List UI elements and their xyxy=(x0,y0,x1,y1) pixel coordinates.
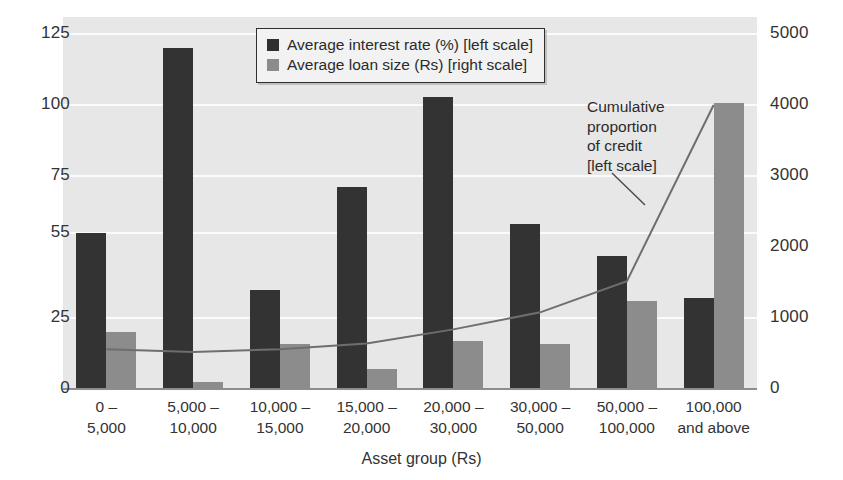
bar-loan-size xyxy=(106,332,136,389)
axis-baseline xyxy=(63,388,757,390)
right-axis-tick-label: 0 xyxy=(770,378,780,398)
right-axis-tick-label: 1000 xyxy=(770,307,809,327)
x-axis-category-label: 50,000 – 100,000 xyxy=(578,396,677,438)
x-axis-category-label: 15,000 – 20,000 xyxy=(317,396,416,438)
chart-legend: Average interest rate (%) [left scale]Av… xyxy=(256,28,545,83)
x-axis-category-label: 10,000 – 15,000 xyxy=(231,396,330,438)
bar-interest-rate xyxy=(423,97,453,389)
x-axis-category-label: 0 – 5,000 xyxy=(57,396,156,438)
bar-interest-rate xyxy=(250,290,280,389)
x-axis-category-label: 5,000 – 10,000 xyxy=(144,396,243,438)
bar-interest-rate xyxy=(597,256,627,389)
bar-interest-rate xyxy=(163,48,193,389)
bar-interest-rate xyxy=(510,224,540,389)
right-axis-tick-label: 3000 xyxy=(770,165,809,185)
legend-swatch-icon xyxy=(267,39,279,51)
legend-item-label: Average loan size (Rs) [right scale] xyxy=(287,55,527,75)
right-axis-tick-label: 4000 xyxy=(770,94,809,114)
chart-container: 0255575100125 010002000300040005000 0 – … xyxy=(0,0,843,480)
bar-loan-size xyxy=(453,341,483,389)
bar-loan-size xyxy=(540,344,570,389)
x-axis-category-label: 100,000 and above xyxy=(664,396,763,438)
legend-swatch-icon xyxy=(267,59,279,71)
legend-item: Average loan size (Rs) [right scale] xyxy=(267,55,533,75)
bar-interest-rate xyxy=(337,187,367,389)
legend-item-label: Average interest rate (%) [left scale] xyxy=(287,35,533,55)
x-axis-title: Asset group (Rs) xyxy=(0,450,843,468)
left-axis-tick-label: 100 xyxy=(41,94,70,114)
bar-loan-size xyxy=(627,301,657,389)
legend-item: Average interest rate (%) [left scale] xyxy=(267,35,533,55)
bar-loan-size xyxy=(714,103,744,389)
left-axis-tick-label: 125 xyxy=(41,23,70,43)
left-axis-tick-label: 25 xyxy=(51,307,70,327)
x-axis-category-labels: 0 – 5,0005,000 – 10,00010,000 – 15,00015… xyxy=(63,396,757,444)
right-axis-tick-label: 5000 xyxy=(770,23,809,43)
left-axis-tick-label: 0 xyxy=(60,378,70,398)
bar-loan-size xyxy=(280,344,310,389)
bar-loan-size xyxy=(367,369,397,389)
bar-interest-rate xyxy=(684,298,714,389)
x-axis-category-label: 20,000 – 30,000 xyxy=(404,396,503,438)
bar-interest-rate xyxy=(76,233,106,389)
right-axis-tick-label: 2000 xyxy=(770,236,809,256)
x-axis-category-label: 30,000 – 50,000 xyxy=(491,396,590,438)
cumulative-proportion-annotation: Cumulative proportion of credit [left sc… xyxy=(587,97,665,175)
left-axis-tick-label: 75 xyxy=(51,165,70,185)
left-axis-tick-label: 55 xyxy=(51,222,70,242)
